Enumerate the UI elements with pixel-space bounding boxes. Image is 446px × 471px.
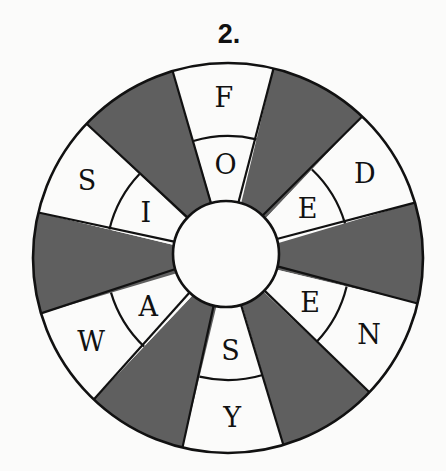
center-hub: [173, 201, 279, 307]
outer-letter-cell: Y: [222, 402, 242, 433]
inner-letter-cell: E: [298, 193, 318, 224]
inner-letter-cell: A: [138, 291, 159, 322]
outer-letter-cell: S: [78, 165, 97, 196]
inner-letter-cell: S: [221, 335, 240, 366]
outer-letter-cell: N: [357, 319, 381, 350]
outer-letter-cell: W: [77, 326, 105, 357]
inner-letter-cell: I: [140, 197, 151, 228]
inner-letter-cell: O: [214, 149, 236, 180]
outer-letter-cell: D: [354, 158, 376, 189]
word-wheel: FODENEYSWASI: [0, 0, 446, 471]
inner-letter-cell: E: [300, 287, 320, 318]
outer-letter-cell: F: [214, 82, 233, 113]
